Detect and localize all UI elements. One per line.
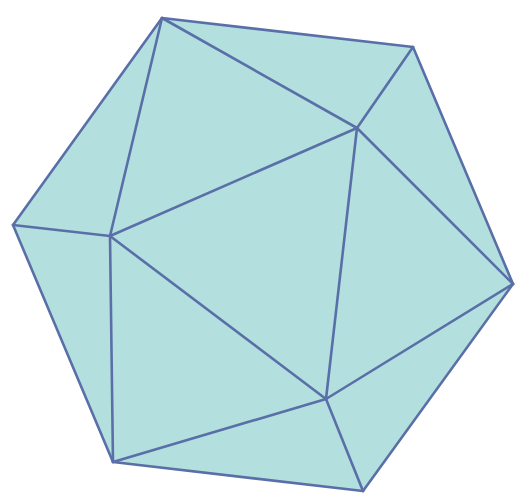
icosahedron-figure xyxy=(0,0,531,504)
icosahedron-fill xyxy=(13,18,513,491)
